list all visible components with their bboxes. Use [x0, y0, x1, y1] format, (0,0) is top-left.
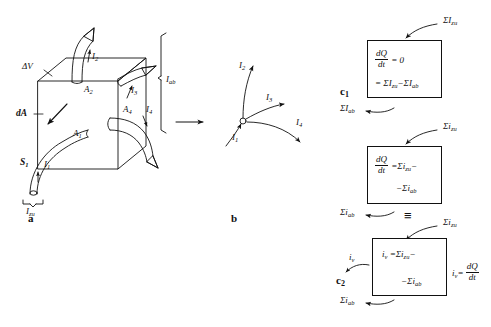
part-label-c1: c1: [340, 86, 349, 99]
figure-canvas: ΔV dA S1 A1 A2 A4 I1 I2 I3 I4 Iab Izu a …: [0, 0, 491, 327]
arrow-inflow-box2: [406, 130, 437, 144]
label-inflow-box3: Σizu: [443, 218, 457, 229]
label-current-i2: I2: [92, 52, 98, 63]
da-normal-arrow: [48, 104, 67, 124]
label-node-i2: I2: [239, 61, 245, 72]
label-outflow-box2: Σiab: [340, 208, 354, 219]
label-inflow-box2: Σizu: [443, 122, 457, 133]
equation-box2-line1: dQ dt =Σizu−: [375, 155, 417, 175]
label-a4: A4: [123, 105, 132, 116]
label-outflow-box1: ΣIab: [340, 104, 355, 115]
equation-box3-line1: iv =Σizu−: [382, 250, 415, 261]
label-iv-left: iv: [349, 253, 354, 264]
label-a2: A2: [84, 85, 93, 96]
label-a1: A1: [73, 129, 82, 140]
label-bracket-i-ab: Iab: [166, 75, 176, 86]
arrow-outflow-box3: [366, 300, 394, 304]
arrow-iv-left: [346, 264, 369, 272]
label-current-i3: I3: [131, 86, 137, 97]
part-label-a: a: [28, 213, 34, 224]
equation-box2-line2: −Σiab: [396, 184, 416, 195]
label-inflow-box1: ΣIzu: [443, 16, 457, 27]
tube-current-3: [118, 66, 156, 86]
label-node-i4: I4: [296, 118, 302, 129]
tube-current-2: [72, 28, 94, 84]
label-delta-v: ΔV: [22, 62, 33, 71]
label-current-i1: I1: [44, 160, 50, 171]
label-da: dA: [16, 109, 27, 119]
arrow-inflow-box1: [406, 24, 437, 38]
part-label-b: b: [231, 213, 237, 224]
tube-current-4: [108, 118, 158, 168]
identity-symbol: ≡: [404, 208, 413, 223]
label-node-i1: I1: [232, 133, 238, 144]
flow-arrow-2: [88, 50, 90, 62]
arrow-outflow-box2: [366, 212, 394, 216]
arrow-outflow-box1: [366, 108, 394, 112]
label-node-i3: I3: [266, 93, 272, 104]
equation-box1-line1: dQ dt = 0: [375, 49, 404, 69]
tube-current-1: [30, 130, 88, 195]
equation-box1-line2: = ΣIzu−ΣIab: [375, 79, 418, 90]
label-outflow-box3: Σiab: [340, 296, 354, 307]
label-s1: S1: [20, 158, 29, 169]
bracket-i-ab: [158, 33, 166, 133]
part-label-c2: c2: [336, 275, 345, 288]
equation-iv-right: iv= dQ dt: [452, 262, 480, 282]
equation-box3-line2: −Σiab: [401, 277, 421, 288]
label-current-i4: I4: [146, 105, 152, 116]
